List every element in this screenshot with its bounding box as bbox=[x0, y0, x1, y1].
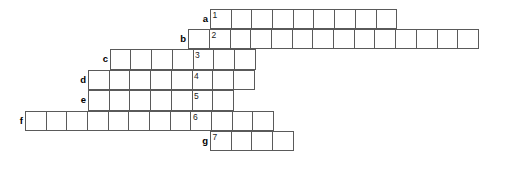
crossword-cell[interactable] bbox=[150, 70, 172, 90]
clue-number-1: 1 bbox=[213, 10, 218, 20]
crossword-cell[interactable] bbox=[252, 111, 274, 131]
crossword-cell[interactable] bbox=[171, 70, 193, 90]
crossword-cell[interactable] bbox=[88, 70, 110, 90]
crossword-row-b: 2 bbox=[188, 29, 478, 49]
crossword-cell[interactable] bbox=[234, 49, 256, 69]
crossword-cell[interactable] bbox=[293, 9, 315, 29]
crossword-cell[interactable] bbox=[354, 29, 376, 49]
crossword-cell[interactable] bbox=[87, 111, 109, 131]
crossword-cell[interactable] bbox=[292, 29, 314, 49]
crossword-cell[interactable] bbox=[437, 29, 459, 49]
crossword-cell[interactable] bbox=[457, 29, 479, 49]
crossword-cell[interactable] bbox=[395, 29, 417, 49]
crossword-cell[interactable] bbox=[171, 90, 193, 110]
crossword-cell[interactable] bbox=[231, 9, 253, 29]
crossword-cell[interactable] bbox=[128, 111, 150, 131]
crossword-cell[interactable] bbox=[312, 29, 334, 49]
crossword-cell[interactable] bbox=[355, 9, 377, 29]
crossword-cell[interactable] bbox=[109, 90, 131, 110]
clue-number-3: 3 bbox=[195, 50, 200, 60]
crossword-cell[interactable] bbox=[151, 49, 173, 69]
crossword-cell[interactable] bbox=[212, 90, 234, 110]
crossword-cell[interactable] bbox=[110, 49, 132, 69]
row-label-e: e bbox=[66, 90, 86, 110]
crossword-cell[interactable] bbox=[334, 9, 356, 29]
crossword-cell[interactable]: 2 bbox=[209, 29, 231, 49]
row-label-c: c bbox=[88, 49, 108, 69]
crossword-cell[interactable] bbox=[109, 70, 131, 90]
crossword-cell[interactable] bbox=[130, 49, 152, 69]
crossword-cell[interactable] bbox=[416, 29, 438, 49]
crossword-cell[interactable] bbox=[46, 111, 68, 131]
row-label-g: g bbox=[188, 131, 208, 151]
row-label-a: a bbox=[188, 9, 208, 29]
crossword-row-f: 6 bbox=[25, 111, 273, 131]
crossword-cell[interactable] bbox=[376, 9, 398, 29]
clue-number-5: 5 bbox=[194, 91, 199, 101]
crossword-cell[interactable] bbox=[129, 90, 151, 110]
row-label-d: d bbox=[66, 70, 86, 90]
crossword-cell[interactable] bbox=[172, 49, 194, 69]
crossword-cell[interactable] bbox=[233, 70, 255, 90]
crossword-cell[interactable] bbox=[230, 29, 252, 49]
crossword-cell[interactable] bbox=[272, 9, 294, 29]
row-label-b: b bbox=[166, 29, 186, 49]
crossword-cell[interactable] bbox=[149, 111, 171, 131]
crossword-cell[interactable] bbox=[66, 111, 88, 131]
crossword-cell[interactable] bbox=[213, 49, 235, 69]
crossword-cell[interactable] bbox=[272, 131, 294, 151]
crossword-cell[interactable] bbox=[250, 29, 272, 49]
crossword-cell[interactable]: 4 bbox=[192, 70, 214, 90]
crossword-cell[interactable] bbox=[88, 90, 110, 110]
clue-number-6: 6 bbox=[193, 112, 198, 122]
crossword-cell[interactable] bbox=[271, 29, 293, 49]
crossword-row-e: 5 bbox=[88, 90, 233, 110]
crossword-cell[interactable]: 7 bbox=[210, 131, 232, 151]
crossword-cell[interactable] bbox=[232, 111, 254, 131]
crossword-cell[interactable]: 6 bbox=[190, 111, 212, 131]
crossword-cell[interactable] bbox=[212, 70, 234, 90]
crossword-cell[interactable] bbox=[211, 111, 233, 131]
crossword-cell[interactable] bbox=[150, 90, 172, 110]
crossword-row-a: 1 bbox=[210, 9, 396, 29]
crossword-cell[interactable]: 5 bbox=[192, 90, 214, 110]
crossword-cell[interactable]: 1 bbox=[210, 9, 232, 29]
crossword-cell[interactable] bbox=[231, 131, 253, 151]
crossword-cell[interactable] bbox=[108, 111, 130, 131]
crossword-row-g: 7 bbox=[210, 131, 293, 151]
crossword-cell[interactable] bbox=[251, 9, 273, 29]
crossword-cell[interactable] bbox=[129, 70, 151, 90]
crossword-cell[interactable] bbox=[313, 9, 335, 29]
crossword-row-c: 3 bbox=[110, 49, 255, 69]
row-label-f: f bbox=[3, 111, 23, 131]
clue-number-2: 2 bbox=[211, 30, 216, 40]
crossword-row-d: 4 bbox=[88, 70, 254, 90]
crossword-cell[interactable] bbox=[333, 29, 355, 49]
crossword-cell[interactable] bbox=[374, 29, 396, 49]
crossword-grid: a1b2c3d4e5f6g7 bbox=[0, 0, 512, 169]
crossword-cell[interactable] bbox=[251, 131, 273, 151]
crossword-cell[interactable] bbox=[170, 111, 192, 131]
clue-number-7: 7 bbox=[213, 132, 218, 142]
clue-number-4: 4 bbox=[194, 71, 199, 81]
crossword-cell[interactable] bbox=[188, 29, 210, 49]
crossword-cell[interactable]: 3 bbox=[193, 49, 215, 69]
crossword-cell[interactable] bbox=[25, 111, 47, 131]
